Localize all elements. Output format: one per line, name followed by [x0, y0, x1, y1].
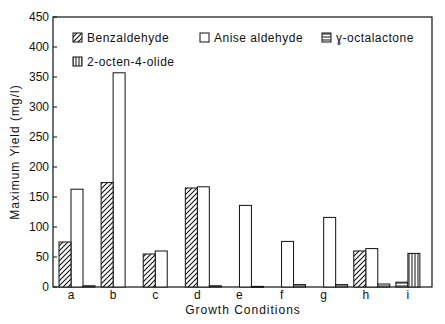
bar-horizontal-hatch-h — [378, 284, 390, 287]
y-tick-label: 100 — [29, 220, 49, 234]
x-category-label: e — [236, 288, 243, 302]
bar-diagonal-hatch-d — [185, 188, 197, 287]
x-category-label: f — [280, 288, 284, 302]
open-swatch-icon — [200, 33, 209, 42]
bar-horizontal-hatch-g — [336, 285, 348, 287]
y-tick-label: 50 — [36, 250, 50, 264]
bar-open-a — [71, 189, 83, 287]
bar-horizontal-hatch-d — [209, 286, 221, 287]
legend-label: ɣ-octalactone — [336, 31, 414, 45]
horizontal-hatch-swatch-icon — [322, 33, 331, 42]
y-tick-label: 200 — [29, 160, 49, 174]
legend-label: 2-octen-4-olide — [87, 55, 175, 69]
bar-diagonal-hatch-h — [354, 251, 366, 287]
y-tick-label: 0 — [42, 280, 49, 294]
x-axis-title: Growth Conditions — [185, 303, 301, 317]
bar-open-c — [155, 251, 167, 287]
bar-open-h — [366, 249, 378, 287]
y-tick-label: 350 — [29, 70, 49, 84]
x-axis: abcdefghi — [68, 288, 410, 302]
x-category-label: c — [152, 288, 158, 302]
bar-diagonal-hatch-c — [143, 254, 155, 287]
bar-horizontal-hatch-f — [294, 285, 306, 287]
diagonal-hatch-swatch-icon — [73, 33, 82, 42]
bar-chart: 050100150200250300350400450 abcdefghi Ma… — [0, 0, 445, 324]
bar-diagonal-hatch-b — [101, 183, 113, 287]
bar-horizontal-hatch-i — [396, 282, 408, 287]
bar-diagonal-hatch-a — [59, 242, 71, 287]
y-axis-title: Maximum Yield (mg/l) — [8, 84, 22, 219]
y-tick-label: 250 — [29, 130, 49, 144]
y-tick-label: 450 — [29, 10, 49, 24]
x-category-label: h — [362, 288, 369, 302]
vertical-hatch-swatch-icon — [73, 57, 82, 66]
bar-horizontal-hatch-e — [251, 286, 263, 287]
y-tick-label: 400 — [29, 40, 49, 54]
legend: BenzaldehydeAnise aldehydeɣ-octalactone2… — [73, 31, 414, 69]
bar-open-d — [197, 187, 209, 287]
bar-open-f — [282, 241, 294, 287]
bars-group — [59, 73, 420, 288]
bar-open-g — [324, 217, 336, 287]
x-category-label: b — [110, 288, 117, 302]
bar-horizontal-hatch-a — [83, 286, 95, 287]
x-category-label: a — [68, 288, 75, 302]
bar-vertical-hatch-i — [408, 253, 420, 287]
y-tick-label: 150 — [29, 190, 49, 204]
x-category-label: i — [407, 288, 410, 302]
bar-open-e — [239, 205, 251, 287]
x-category-label: d — [194, 288, 201, 302]
legend-label: Benzaldehyde — [87, 31, 169, 45]
bar-open-b — [113, 73, 125, 287]
y-tick-label: 300 — [29, 100, 49, 114]
x-category-label: g — [320, 288, 327, 302]
legend-label: Anise aldehyde — [214, 31, 303, 45]
